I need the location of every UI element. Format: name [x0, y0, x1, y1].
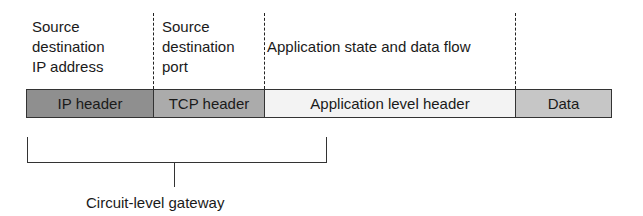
segment-ip-header: IP header — [27, 90, 154, 117]
segment-data-label: Data — [548, 95, 580, 112]
segment-application-header: Application level header — [265, 90, 516, 117]
caption-circuit-level-gateway: Circuit-level gateway — [86, 193, 224, 213]
segment-tcp-header-label: TCP header — [169, 95, 250, 112]
label-ip-address: Source destination IP address — [32, 17, 105, 77]
bracket-right-tick — [326, 137, 327, 163]
divider-ip-tcp — [153, 13, 154, 89]
bracket-horizontal — [27, 162, 327, 163]
bracket-stem — [174, 162, 175, 187]
segment-data: Data — [516, 90, 611, 117]
segment-application-header-label: Application level header — [310, 95, 469, 112]
packet-structure-bar: IP header TCP header Application level h… — [26, 89, 612, 118]
bracket-left-tick — [27, 137, 28, 163]
label-port: Source destination port — [162, 17, 235, 77]
divider-tcp-app — [264, 13, 265, 89]
divider-app-data — [515, 13, 516, 89]
segment-ip-header-label: IP header — [58, 95, 123, 112]
segment-tcp-header: TCP header — [154, 90, 265, 117]
label-application-state: Application state and data flow — [267, 37, 470, 57]
